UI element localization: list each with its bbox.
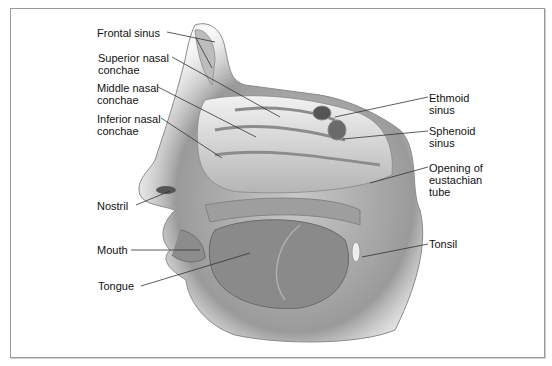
label-mouth: Mouth	[97, 244, 128, 256]
label-ethmoid-sinus: Ethmoid sinus	[429, 92, 469, 116]
label-nostril: Nostril	[97, 200, 128, 212]
label-superior-nasal-conchae: Superior nasal conchae	[98, 52, 169, 76]
label-opening-of-eustachian-tube: Opening of eustachian tube	[429, 162, 483, 198]
label-inferior-nasal-conchae: Inferior nasal conchae	[97, 113, 161, 137]
ethmoid-sinus-shape	[313, 106, 331, 120]
label-tongue: Tongue	[98, 280, 134, 292]
label-middle-nasal-conchae: Middle nasal conchae	[97, 82, 159, 106]
sphenoid-sinus-shape	[328, 120, 346, 140]
label-tonsil: Tonsil	[429, 238, 457, 250]
label-sphenoid-sinus: Sphenoid sinus	[429, 125, 476, 149]
label-frontal-sinus: Frontal sinus	[97, 27, 160, 39]
tonsil-shape	[352, 242, 360, 262]
